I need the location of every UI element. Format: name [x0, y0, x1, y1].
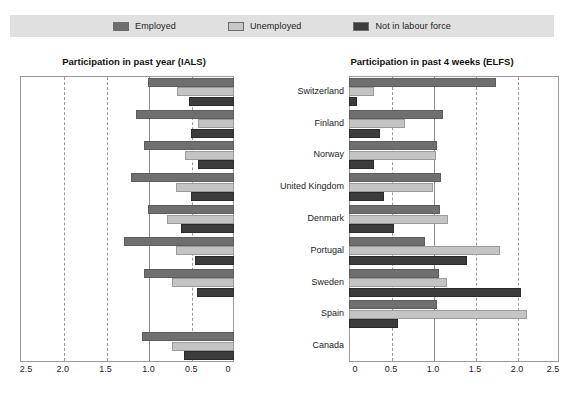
tick-label-elfs-2-5: 2.5: [547, 364, 560, 374]
bar-ials-united-kingdom-not-in-labour-force: [191, 192, 234, 201]
category-label-denmark: Denmark: [307, 213, 344, 223]
category-label-portugal: Portugal: [310, 245, 344, 255]
bar-ials-sweden-employed: [144, 269, 234, 278]
bar-ials-norway-not-in-labour-force: [198, 160, 234, 169]
bar-elfs-united-kingdom-unemployed: [349, 183, 433, 192]
bar-elfs-finland-not-in-labour-force: [349, 129, 380, 138]
legend-label-employed: Employed: [135, 21, 176, 31]
bar-ials-denmark-not-in-labour-force: [181, 224, 234, 233]
bar-elfs-united-kingdom-employed: [349, 173, 441, 182]
bars-elfs: [349, 76, 559, 362]
bar-elfs-portugal-employed: [349, 237, 425, 246]
bar-ials-canada-unemployed: [172, 342, 234, 351]
bar-elfs-portugal-unemployed: [349, 246, 500, 255]
bar-ials-denmark-employed: [148, 205, 234, 214]
bar-elfs-finland-employed: [349, 110, 443, 119]
bar-ials-canada-not-in-labour-force: [184, 351, 234, 360]
tick-label-ials-2-0: 2.0: [57, 364, 70, 374]
bar-elfs-norway-unemployed: [349, 151, 436, 160]
category-label-spain: Spain: [321, 308, 344, 318]
x-axis-ials: 2.52.01.51.00.50: [20, 364, 234, 378]
tick-label-ials-0: 0: [225, 364, 230, 374]
bar-ials-sweden-unemployed: [172, 278, 234, 287]
category-label-united-kingdom: United Kingdom: [280, 181, 344, 191]
category-label-canada: Canada: [312, 340, 344, 350]
legend-swatch-employed: [113, 22, 129, 31]
bar-elfs-sweden-unemployed: [349, 278, 447, 287]
category-label-sweden: Sweden: [311, 277, 344, 287]
bar-ials-switzerland-not-in-labour-force: [189, 97, 234, 106]
bar-elfs-norway-not-in-labour-force: [349, 160, 374, 169]
bar-elfs-switzerland-unemployed: [349, 87, 374, 96]
chart-title-ials: Participation in past year (IALS): [14, 56, 254, 67]
bar-ials-switzerland-employed: [148, 78, 234, 87]
chart-page: Employed Unemployed Not in labour force …: [0, 0, 564, 408]
bar-elfs-switzerland-employed: [349, 78, 496, 87]
legend-swatch-unemployed: [228, 22, 244, 31]
bar-elfs-portugal-not-in-labour-force: [349, 256, 467, 265]
legend-swatch-nilf: [353, 22, 369, 31]
bar-ials-sweden-not-in-labour-force: [197, 288, 234, 297]
legend-label-unemployed: Unemployed: [250, 21, 302, 31]
bar-ials-denmark-unemployed: [167, 215, 234, 224]
bar-elfs-denmark-employed: [349, 205, 440, 214]
bar-elfs-spain-employed: [349, 300, 437, 309]
x-axis-elfs: 00.51.01.52.02.5: [349, 364, 559, 378]
bar-elfs-sweden-not-in-labour-force: [349, 288, 521, 297]
bar-ials-norway-unemployed: [185, 151, 234, 160]
category-labels: SwitzerlandFinlandNorwayUnited KingdomDe…: [236, 76, 348, 362]
tick-label-elfs-1-5: 1.5: [469, 364, 482, 374]
legend-item-unemployed: Unemployed: [228, 21, 302, 31]
bar-elfs-norway-employed: [349, 141, 437, 150]
tick-label-elfs-0: 0: [352, 364, 357, 374]
tick-label-elfs-0-5: 0.5: [385, 364, 398, 374]
bar-elfs-switzerland-not-in-labour-force: [349, 97, 357, 106]
legend: Employed Unemployed Not in labour force: [10, 15, 554, 37]
bar-ials-portugal-not-in-labour-force: [195, 256, 234, 265]
bar-ials-united-kingdom-unemployed: [176, 183, 234, 192]
tick-label-elfs-2-0: 2.0: [511, 364, 524, 374]
bar-ials-portugal-unemployed: [176, 246, 234, 255]
bars-ials: [20, 76, 234, 362]
tick-label-ials-1-5: 1.5: [99, 364, 112, 374]
category-label-finland: Finland: [314, 118, 344, 128]
tick-label-ials-0-5: 0.5: [185, 364, 198, 374]
bar-elfs-denmark-unemployed: [349, 215, 448, 224]
bar-elfs-united-kingdom-not-in-labour-force: [349, 192, 384, 201]
category-label-norway: Norway: [313, 149, 344, 159]
tick-label-ials-2-5: 2.5: [20, 364, 33, 374]
category-label-switzerland: Switzerland: [297, 86, 344, 96]
bar-ials-finland-employed: [136, 110, 234, 119]
bar-ials-finland-unemployed: [198, 119, 234, 128]
legend-label-nilf: Not in labour force: [375, 21, 450, 31]
legend-item-nilf: Not in labour force: [353, 21, 450, 31]
bar-elfs-sweden-employed: [349, 269, 439, 278]
bar-ials-finland-not-in-labour-force: [191, 129, 234, 138]
tick-label-ials-1-0: 1.0: [142, 364, 155, 374]
bar-elfs-finland-unemployed: [349, 119, 405, 128]
bar-elfs-spain-unemployed: [349, 310, 527, 319]
bar-ials-portugal-employed: [124, 237, 234, 246]
legend-item-employed: Employed: [113, 21, 176, 31]
bar-elfs-denmark-not-in-labour-force: [349, 224, 394, 233]
chart-title-elfs: Participation in past 4 weeks (ELFS): [312, 56, 552, 67]
bar-elfs-spain-not-in-labour-force: [349, 319, 398, 328]
bar-ials-united-kingdom-employed: [131, 173, 234, 182]
tick-label-elfs-1-0: 1.0: [427, 364, 440, 374]
bar-ials-switzerland-unemployed: [177, 87, 234, 96]
bar-ials-norway-employed: [144, 141, 234, 150]
bar-ials-canada-employed: [142, 332, 234, 341]
